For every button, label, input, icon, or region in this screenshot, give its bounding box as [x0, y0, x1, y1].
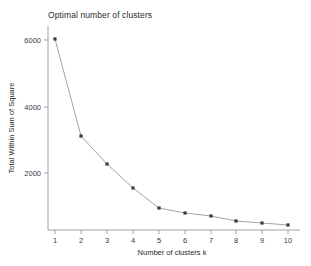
data-points: [53, 37, 289, 226]
x-axis-title: Number of clusters k: [138, 248, 207, 257]
x-tick-label-8: 8: [234, 236, 238, 245]
y-axis-title: Total Within Sum of Square: [7, 83, 16, 174]
data-point-k7: [209, 214, 212, 217]
x-tick-label-2: 2: [79, 236, 83, 245]
elbow-plot: 6000 4000 2000 1 2 3 4 5 6 7 8: [0, 0, 311, 266]
x-tick-label-4: 4: [131, 236, 135, 245]
x-tick-label-5: 5: [157, 236, 161, 245]
data-point-k10: [286, 223, 289, 226]
data-series-line: [55, 39, 288, 225]
y-tick-label-6000: 6000: [24, 36, 41, 45]
data-point-k6: [183, 211, 186, 214]
x-axis-ticks: 1 2 3 4 5 6 7 8 9 10: [53, 230, 292, 245]
x-tick-label-7: 7: [209, 236, 213, 245]
data-point-k2: [79, 134, 82, 137]
x-tick-label-3: 3: [105, 236, 109, 245]
data-point-k9: [260, 221, 263, 224]
data-point-k5: [157, 206, 160, 209]
x-tick-label-10: 10: [284, 236, 292, 245]
x-tick-label-9: 9: [260, 236, 264, 245]
data-point-k4: [131, 186, 134, 189]
y-tick-label-4000: 4000: [24, 103, 41, 112]
chart-figure: Optimal number of clusters 6000 4000 200…: [0, 0, 311, 266]
data-point-k3: [105, 162, 108, 165]
y-tick-label-2000: 2000: [24, 169, 41, 178]
x-tick-label-6: 6: [183, 236, 187, 245]
data-point-k1: [53, 37, 56, 40]
x-tick-label-1: 1: [53, 236, 57, 245]
data-point-k8: [234, 219, 237, 222]
y-axis-ticks: 6000 4000 2000: [24, 36, 48, 178]
